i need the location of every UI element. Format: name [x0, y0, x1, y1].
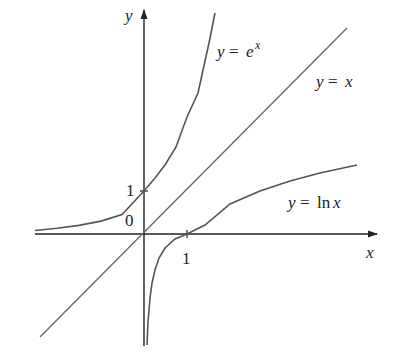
svg-text:x: x: [332, 193, 341, 212]
origin-label: 0: [125, 211, 134, 230]
svg-text:y: y: [314, 72, 324, 91]
svg-text:x: x: [344, 72, 353, 91]
svg-text:=: =: [328, 72, 338, 91]
identity-line-label: y = x: [314, 72, 353, 91]
graph-canvas: y x 0 1 1 y = e x y = x y = ln x: [0, 0, 399, 363]
svg-text:ln: ln: [317, 193, 331, 212]
x-axis-label: x: [365, 243, 374, 262]
y-axis-label: y: [123, 6, 133, 25]
x-tick-label: 1: [182, 249, 191, 268]
ln-curve: [147, 165, 357, 345]
svg-text:=: =: [300, 193, 310, 212]
svg-text:y: y: [286, 193, 296, 212]
svg-text:y: y: [215, 42, 225, 61]
svg-text:=: =: [229, 42, 239, 61]
exp-curve-label: y = e x: [215, 38, 261, 61]
exp-curve: [35, 13, 215, 231]
identity-line: [40, 28, 347, 337]
svg-text:e: e: [246, 42, 254, 61]
y-tick-label: 1: [126, 181, 135, 200]
svg-text:x: x: [254, 38, 261, 52]
ln-curve-label: y = ln x: [286, 193, 341, 212]
